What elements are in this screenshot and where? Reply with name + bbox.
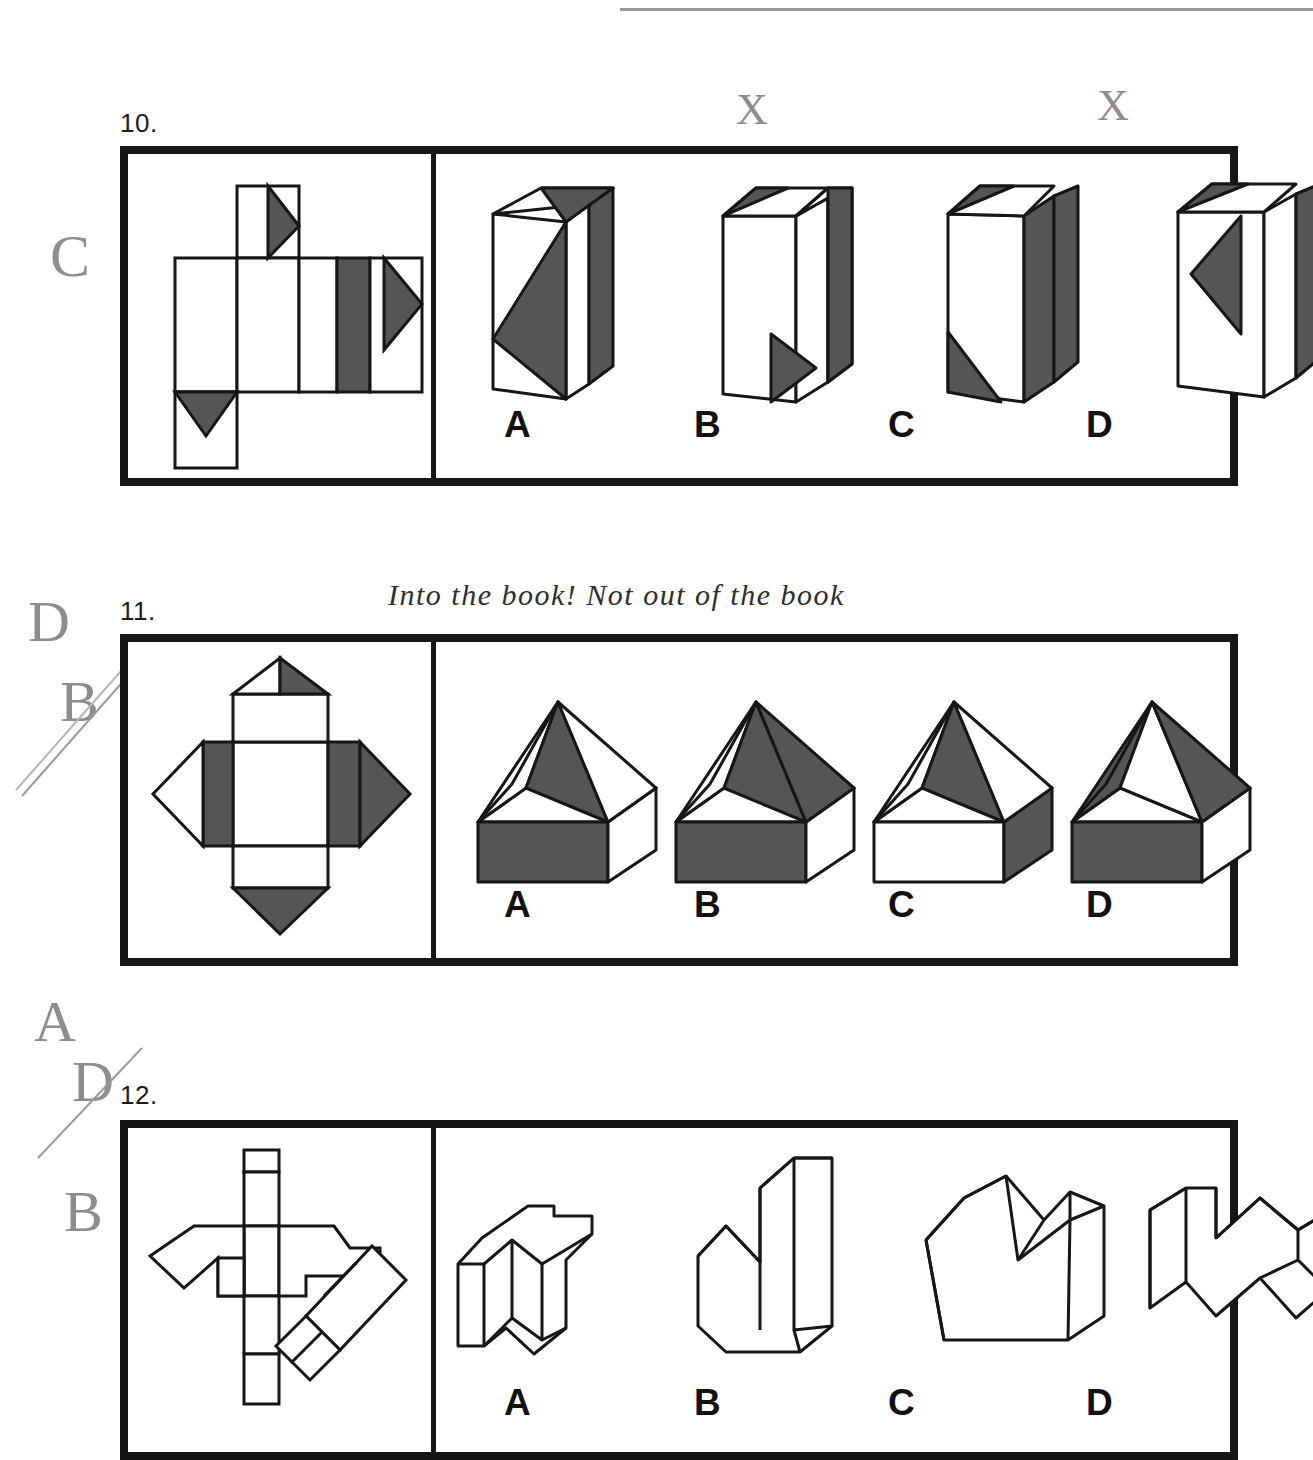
question-12-option-D-label: D (1086, 1382, 1113, 1424)
question-12-number: 12. (120, 1080, 158, 1111)
question-12-option-B-label: B (694, 1382, 721, 1424)
question-12-options: A B C D (436, 1128, 1230, 1452)
question-12-option-C-label: C (888, 1382, 915, 1424)
question-12-option-A-label: A (504, 1382, 531, 1424)
question-12-net (128, 1128, 431, 1452)
question-12-box: A B C D (120, 1120, 1238, 1460)
